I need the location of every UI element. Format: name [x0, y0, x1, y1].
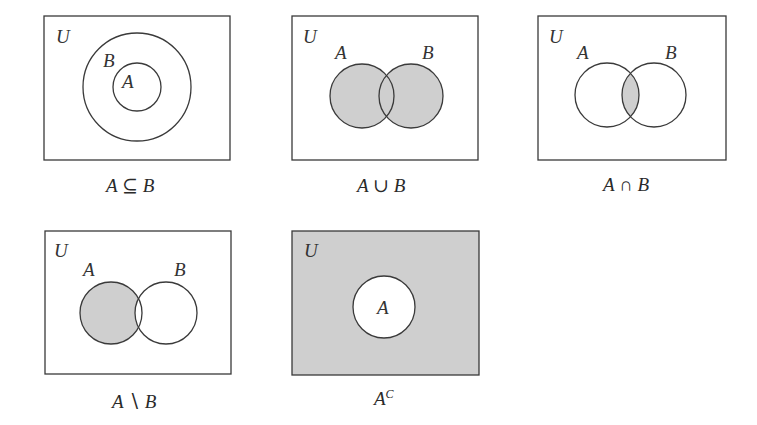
caption-operator: ⊆: [122, 175, 138, 196]
set-a-label: A: [81, 259, 95, 280]
caption-left: A: [357, 175, 368, 196]
diagram-intersection: U A B A ∩ B: [520, 0, 757, 210]
diagram-complement: U A AC: [280, 215, 520, 425]
set-b-label: B: [103, 50, 115, 71]
set-a-label: A: [120, 71, 134, 92]
caption-left: A: [374, 388, 386, 409]
caption-intersection: A ∩ B: [603, 174, 649, 196]
caption-operator: ∪: [373, 175, 389, 196]
universe-label: U: [54, 240, 69, 261]
venn-complement-graphic: U A: [280, 215, 520, 425]
set-a-label: A: [575, 42, 589, 63]
set-b-label: B: [422, 42, 434, 63]
caption-right: B: [638, 174, 650, 195]
set-b-label: B: [665, 42, 677, 63]
caption-operator: ∖: [128, 391, 140, 412]
set-a-label: A: [375, 297, 389, 318]
caption-left: A: [112, 391, 123, 412]
caption-union: A ∪ B: [357, 174, 405, 197]
caption-superscript: C: [386, 387, 394, 401]
caption-complement: AC: [374, 387, 394, 410]
caption-right: B: [145, 391, 157, 412]
set-b-label: B: [174, 259, 186, 280]
diagram-difference: U A B A ∖ B: [30, 215, 270, 425]
universe-label: U: [303, 26, 318, 47]
diagram-subset: U B A A ⊆ B: [0, 0, 260, 210]
caption-operator: ∩: [619, 174, 633, 195]
caption-right: B: [394, 175, 406, 196]
universe-rect: [44, 16, 230, 160]
caption-subset: A ⊆ B: [106, 174, 154, 197]
set-a-label: A: [333, 42, 347, 63]
diagram-union: U A B A ∪ B: [270, 0, 490, 210]
caption-left: A: [106, 175, 117, 196]
universe-label: U: [56, 26, 71, 47]
universe-label: U: [549, 26, 564, 47]
caption-right: B: [143, 175, 155, 196]
universe-label: U: [304, 240, 319, 261]
caption-left: A: [603, 174, 614, 195]
caption-difference: A ∖ B: [112, 390, 156, 413]
